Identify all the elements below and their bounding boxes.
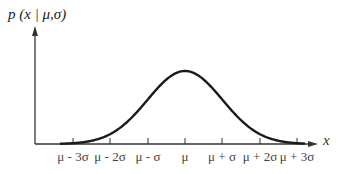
- y-axis-arrow-icon: [32, 26, 38, 36]
- x-axis-label: x: [323, 132, 330, 149]
- tick-label-mu: μ: [182, 149, 189, 165]
- plot-area: [0, 0, 338, 174]
- x-axis-ticks: [73, 138, 297, 144]
- tick-label-mu-minus-2sigma: μ - 2σ: [94, 149, 125, 165]
- tick-label-mu-plus-3sigma: μ + 3σ: [280, 149, 314, 165]
- tick-label-mu-minus-3sigma: μ - 3σ: [57, 149, 88, 165]
- tick-label-mu-minus-sigma: μ - σ: [136, 149, 161, 165]
- bell-curve: [60, 71, 305, 144]
- y-axis-label: p (x | μ,σ): [8, 6, 66, 23]
- tick-label-mu-plus-2sigma: μ + 2σ: [243, 149, 277, 165]
- x-axis-arrow-icon: [308, 141, 318, 147]
- normal-distribution-diagram: p (x | μ,σ) x μ - 3σ μ - 2σ μ - σ μ μ + …: [0, 0, 338, 174]
- tick-label-mu-plus-sigma: μ + σ: [208, 149, 236, 165]
